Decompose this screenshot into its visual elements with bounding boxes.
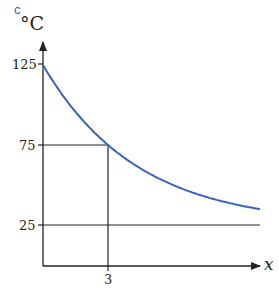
- y-tick-125: 125: [12, 57, 37, 72]
- y-tick-75: 75: [19, 138, 36, 153]
- x-tick-3: 3: [104, 272, 112, 287]
- y-tick-25: 25: [19, 218, 36, 233]
- temperature-curve: [43, 65, 260, 209]
- chart: °C x 125 75 25 3: [0, 0, 279, 294]
- y-axis-label: °C: [20, 12, 44, 34]
- x-axis-label: x: [264, 254, 274, 274]
